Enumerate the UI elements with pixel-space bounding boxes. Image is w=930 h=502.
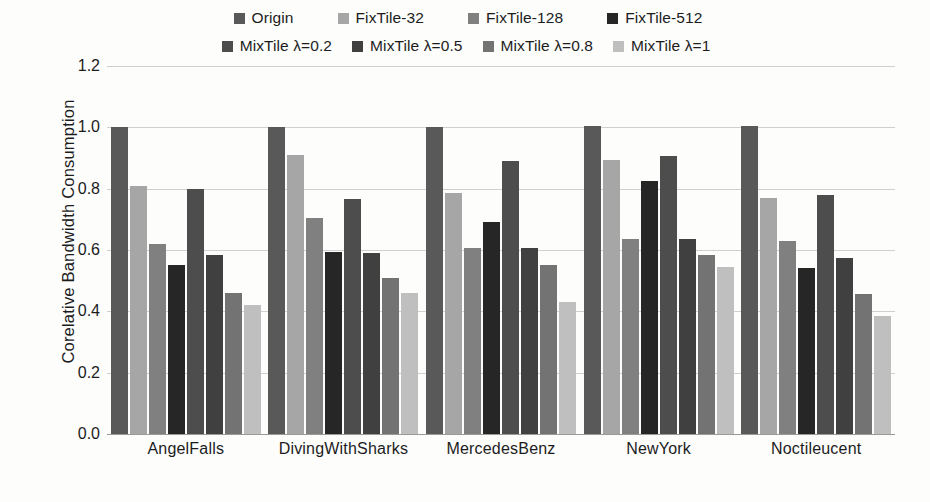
legend-item[interactable]: FixTile-512	[607, 9, 702, 27]
bar-slot	[363, 66, 380, 434]
bar-slot	[679, 66, 696, 434]
bar[interactable]	[559, 302, 576, 434]
bar[interactable]	[168, 265, 185, 434]
bar[interactable]	[760, 198, 777, 434]
bar[interactable]	[779, 241, 796, 434]
legend-swatch-icon	[607, 13, 618, 24]
legend-item[interactable]: FixTile-32	[338, 9, 424, 27]
bar-slot	[344, 66, 361, 434]
legend-item[interactable]: FixTile-128	[468, 9, 563, 27]
plot-wrapper: Corelative Bandwidth Consumption 1.21.00…	[0, 66, 930, 502]
bar-slot	[502, 66, 519, 434]
bar[interactable]	[717, 267, 734, 434]
y-axis-tick-label: 1.0	[52, 118, 100, 136]
chart-legend: OriginFixTile-32FixTile-128FixTile-512 M…	[0, 4, 930, 66]
legend-row-2: MixTile λ=0.2MixTile λ=0.5MixTile λ=0.8M…	[0, 32, 930, 60]
bar[interactable]	[306, 218, 323, 434]
bar[interactable]	[401, 293, 418, 434]
bar[interactable]	[225, 293, 242, 434]
bar-slot	[382, 66, 399, 434]
legend-swatch-icon	[468, 13, 479, 24]
bar-slot	[779, 66, 796, 434]
y-axis-tick-label: 1.2	[52, 57, 100, 75]
y-axis-tick-label: 0.6	[52, 241, 100, 259]
bar[interactable]	[149, 244, 166, 434]
bar-slot	[836, 66, 853, 434]
bar[interactable]	[382, 278, 399, 434]
legend-item-label: MixTile λ=1	[631, 37, 710, 55]
legend-item-label: MixTile λ=0.8	[501, 37, 593, 55]
bar-slot	[741, 66, 758, 434]
bar-slot	[149, 66, 166, 434]
bar-slot	[483, 66, 500, 434]
legend-item[interactable]: MixTile λ=0.2	[222, 37, 332, 55]
bar-slot	[306, 66, 323, 434]
bar-slot	[168, 66, 185, 434]
bar[interactable]	[855, 294, 872, 434]
bar[interactable]	[798, 268, 815, 434]
bar[interactable]	[464, 248, 481, 434]
bar[interactable]	[540, 265, 557, 434]
bar-slot	[584, 66, 601, 434]
bar-slot	[187, 66, 204, 434]
bar[interactable]	[836, 258, 853, 434]
bar[interactable]	[698, 255, 715, 434]
bar[interactable]	[660, 156, 677, 434]
legend-swatch-icon	[352, 41, 363, 52]
bar[interactable]	[521, 248, 538, 434]
bar[interactable]	[445, 193, 462, 434]
bar[interactable]	[603, 160, 620, 434]
legend-item-label: FixTile-32	[356, 9, 424, 27]
bar-slot	[130, 66, 147, 434]
bar[interactable]	[741, 126, 758, 434]
legend-item[interactable]: MixTile λ=0.8	[483, 37, 593, 55]
bar[interactable]	[641, 181, 658, 434]
bar[interactable]	[584, 126, 601, 434]
bar-slot	[717, 66, 734, 434]
bar-slot	[426, 66, 443, 434]
bar[interactable]	[344, 199, 361, 434]
bar-slot	[603, 66, 620, 434]
bar[interactable]	[287, 155, 304, 434]
bar-groups	[107, 66, 895, 434]
bar-slot	[760, 66, 777, 434]
bar[interactable]	[622, 239, 639, 434]
bar[interactable]	[502, 161, 519, 434]
bar[interactable]	[187, 189, 204, 434]
legend-item[interactable]: Origin	[234, 9, 294, 27]
bar-slot	[325, 66, 342, 434]
bar-slot	[798, 66, 815, 434]
bar[interactable]	[325, 252, 342, 434]
legend-item-label: MixTile λ=0.5	[370, 37, 462, 55]
bar[interactable]	[268, 127, 285, 434]
bar[interactable]	[817, 195, 834, 434]
bar[interactable]	[483, 222, 500, 434]
bar[interactable]	[244, 305, 261, 434]
legend-item-label: Origin	[252, 9, 294, 27]
legend-item-label: FixTile-512	[625, 9, 702, 27]
bar-slot	[817, 66, 834, 434]
bar[interactable]	[111, 127, 128, 434]
bar[interactable]	[874, 316, 891, 434]
bar-slot	[445, 66, 462, 434]
bar-slot	[464, 66, 481, 434]
bar[interactable]	[363, 253, 380, 434]
x-axis-category-label: Noctileucent	[737, 440, 895, 458]
bar[interactable]	[206, 255, 223, 434]
bar-group	[265, 66, 423, 434]
legend-row-1: OriginFixTile-32FixTile-128FixTile-512	[0, 4, 930, 32]
bar[interactable]	[130, 186, 147, 434]
bar-slot	[268, 66, 285, 434]
bar[interactable]	[679, 239, 696, 434]
legend-item[interactable]: MixTile λ=1	[613, 37, 710, 55]
bar-slot	[622, 66, 639, 434]
plot-area	[107, 66, 895, 434]
bar[interactable]	[426, 127, 443, 434]
legend-swatch-icon	[234, 13, 245, 24]
legend-swatch-icon	[483, 41, 494, 52]
bar-slot	[874, 66, 891, 434]
legend-item[interactable]: MixTile λ=0.5	[352, 37, 462, 55]
chart-page: OriginFixTile-32FixTile-128FixTile-512 M…	[0, 0, 930, 502]
y-axis-tick-label: 0.2	[52, 364, 100, 382]
bar-group	[580, 66, 738, 434]
